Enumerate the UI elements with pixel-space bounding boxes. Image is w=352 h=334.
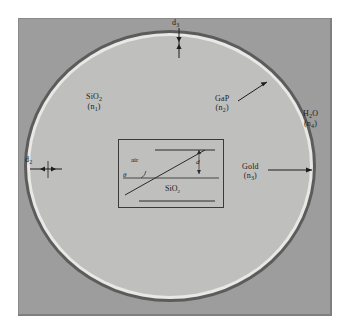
annotation-overlay [0,0,352,334]
label-d2: d2 [25,156,32,166]
label-sio2: SiO2 (n1) [86,93,102,112]
label-h2o: H2O (n4) [303,110,318,129]
label-gold: Gold (n3) [242,163,259,182]
label-gap: GaP (n2) [215,95,229,114]
label-d3: d3 [172,19,179,29]
figure-root: air SiO2 θ d SiO2 (n1) GaP (n2) H2O (n4) [0,0,352,334]
